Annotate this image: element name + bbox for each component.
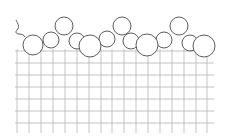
particle-circle-mid xyxy=(99,31,115,47)
particle-grid-diagram xyxy=(0,0,225,138)
left-squiggle-line xyxy=(16,20,25,37)
particle-circle-top xyxy=(55,17,73,35)
grid xyxy=(15,49,214,133)
particle-circle-bottom xyxy=(23,35,43,55)
particle-circle-bottom xyxy=(79,35,101,57)
particle-circle-bottom xyxy=(136,34,158,56)
particle-circle-mid xyxy=(43,32,59,48)
particle-circle-bottom xyxy=(193,35,215,57)
particle-circle-top xyxy=(170,17,188,35)
particle-circle-top xyxy=(113,17,131,35)
